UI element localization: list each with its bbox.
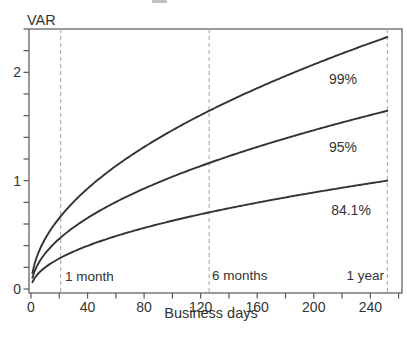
- x-tick-label: 40: [80, 299, 96, 315]
- var-vs-horizon-chart: 04080120160200240012 VAR Business days 9…: [0, 0, 407, 338]
- x-tick-label: 200: [302, 299, 326, 315]
- reference-label-1-month: 1 month: [65, 269, 114, 284]
- x-axis-title: Business days: [164, 305, 258, 321]
- reference-lines-layer: [61, 29, 388, 293]
- series-label-95: 95%: [329, 139, 357, 155]
- y-tick-label: 2: [13, 64, 21, 80]
- y-tick-label: 1: [13, 173, 21, 189]
- y-axis-title: VAR: [27, 12, 56, 28]
- var-curve-84.1: [32, 181, 387, 283]
- series-label-84: 84.1%: [331, 202, 371, 218]
- series-label-99: 99%: [329, 71, 357, 87]
- chart-canvas: 04080120160200240012 VAR Business days 9…: [0, 0, 407, 338]
- reference-label-6-months: 6 months: [212, 268, 268, 283]
- var-curve-95: [32, 111, 387, 278]
- x-tick-label: 240: [359, 299, 383, 315]
- reference-label-1-year: 1 year: [346, 268, 384, 283]
- x-tick-label: 0: [27, 299, 35, 315]
- x-tick-label: 80: [136, 299, 152, 315]
- cropped-caption-fragment: [152, 0, 167, 3]
- y-tick-label: 0: [13, 281, 21, 297]
